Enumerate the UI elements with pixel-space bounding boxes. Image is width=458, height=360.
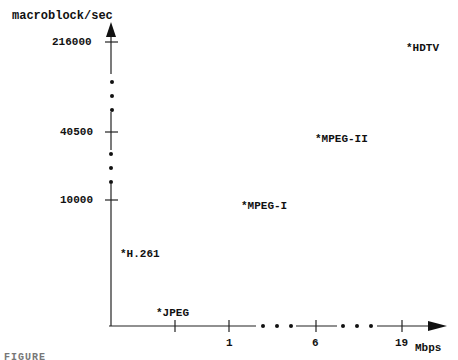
x-tick-6: 6 [312, 337, 319, 349]
y-tick-40500: 40500 [60, 126, 93, 138]
point-label-hdtv: *HDTV [406, 42, 439, 54]
point-label-h261: *H.261 [120, 248, 160, 260]
x-axis-label: Mbps [415, 342, 441, 354]
y-tick-216000: 216000 [52, 36, 92, 48]
point-label-mpeg-i: *MPEG-I [241, 200, 287, 212]
figure-caption: FIGURE [4, 352, 46, 360]
y-axis-label: macroblock/sec [12, 10, 113, 22]
chart-axes [0, 0, 458, 360]
x-tick-19: 19 [395, 337, 408, 349]
point-label-mpeg-ii: *MPEG-II [315, 133, 368, 145]
point-label-jpeg: *JPEG [156, 307, 189, 319]
y-tick-10000: 10000 [60, 194, 93, 206]
x-tick-1: 1 [226, 337, 233, 349]
